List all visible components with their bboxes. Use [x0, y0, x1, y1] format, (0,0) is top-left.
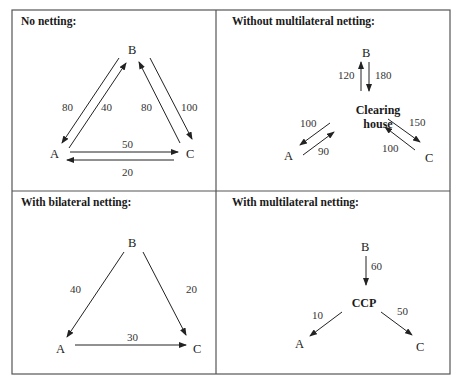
node-c: C [193, 342, 201, 356]
arrow-a-to-b [69, 63, 126, 148]
edge-label: 80 [141, 101, 153, 113]
edge-label: 40 [101, 101, 113, 113]
edge-label: 20 [122, 166, 134, 178]
edge-label: 20 [186, 283, 198, 295]
panel-no-netting: No netting: B A C 80 40 80 100 50 20 [21, 15, 198, 178]
node-c: C [416, 340, 424, 354]
hub-label-line1: Clearing [356, 103, 401, 117]
edge-label: 100 [300, 117, 317, 129]
panel-without-multilateral-netting: Without multilateral netting: B Clearing… [232, 15, 433, 165]
edge-label: 50 [122, 138, 134, 150]
edge-label: 90 [318, 145, 330, 157]
node-a: A [56, 342, 65, 356]
node-c: C [186, 147, 194, 161]
node-a: A [295, 337, 304, 351]
netting-diagram: No netting: B A C 80 40 80 100 50 20 Wit… [0, 0, 461, 385]
edge-label: 150 [409, 116, 426, 128]
outer-border [12, 10, 450, 374]
arrow-b-to-c [150, 58, 192, 139]
node-b: B [362, 46, 370, 60]
panel-bilateral-netting: With bilateral netting: B A C 40 20 30 [21, 196, 201, 356]
panel-title: With multilateral netting: [232, 196, 359, 209]
arrow-b-to-c [143, 252, 186, 335]
node-c: C [425, 151, 433, 165]
edge-label: 30 [127, 331, 139, 343]
panel-grid [12, 10, 450, 374]
edge-label: 100 [181, 101, 198, 113]
edge-label: 180 [375, 69, 392, 81]
node-a: A [50, 147, 59, 161]
panel-multilateral-netting: With multilateral netting: B CCP A C 60 … [232, 196, 424, 354]
panel-title: Without multilateral netting: [232, 15, 375, 28]
panel-title: No netting: [21, 15, 76, 28]
edge-label: 100 [382, 142, 399, 154]
edge-label: 60 [371, 260, 383, 272]
node-b: B [128, 236, 136, 250]
edge-label: 50 [397, 305, 409, 317]
edge-label: 40 [70, 283, 82, 295]
edge-label: 120 [338, 69, 355, 81]
node-b: B [361, 240, 369, 254]
hub-label: CCP [352, 296, 377, 310]
node-a: A [284, 149, 293, 163]
edge-label: 80 [62, 101, 74, 113]
node-b: B [128, 43, 136, 57]
edge-label: 10 [312, 309, 324, 321]
panel-title: With bilateral netting: [21, 196, 131, 209]
